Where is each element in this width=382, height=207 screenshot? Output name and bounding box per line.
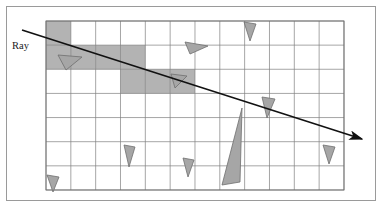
shaded-cell: [120, 69, 145, 93]
ray-label: Ray: [12, 40, 30, 51]
ray-grid-figure: Ray: [0, 0, 382, 207]
figure-root: Ray: [0, 0, 382, 207]
